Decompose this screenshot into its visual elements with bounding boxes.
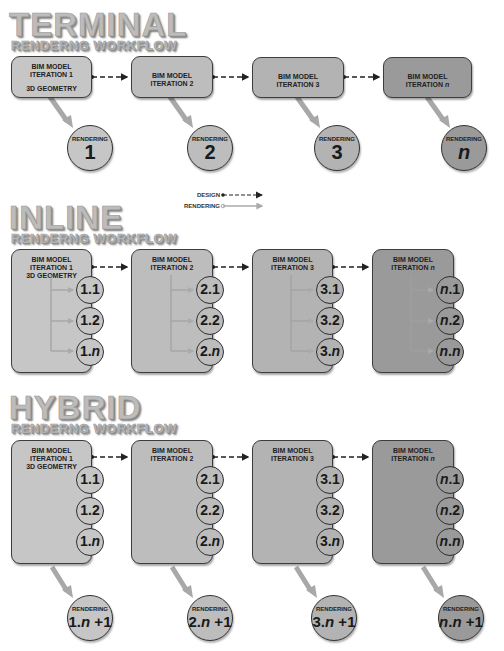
sub-rendering: 1.n [76, 528, 104, 556]
sub-rendering: 3.1 [316, 466, 344, 494]
sub-rendering: 3.n [316, 338, 344, 366]
sub-rendering: n.1 [436, 466, 464, 494]
hybrid-rendering-n: RENDERINGn.n +1 [438, 595, 484, 641]
sub-rendering: 3.n [316, 528, 344, 556]
sub-rendering: 1.1 [76, 276, 104, 304]
sub-rendering: 1.n [76, 338, 104, 366]
sub-rendering: 3.2 [316, 307, 344, 335]
sub-rendering: 2.n [196, 338, 224, 366]
hybrid-rendering-2: RENDERING2.n +1 [187, 595, 233, 641]
section-subtitle-hybrid: RENDERNG WORKFLOW [11, 422, 177, 436]
sub-rendering: 1.2 [76, 497, 104, 525]
sub-rendering: n.n [436, 338, 464, 366]
sub-rendering: 2.1 [196, 466, 224, 494]
sub-rendering: 3.2 [316, 497, 344, 525]
hybrid-rendering-3: RENDERING3.n +1 [311, 595, 357, 641]
sub-rendering: 1.1 [76, 466, 104, 494]
sub-rendering: n.n [436, 528, 464, 556]
sub-rendering: 2.1 [196, 276, 224, 304]
section-title-hybrid: HYBRID [9, 393, 142, 423]
sub-rendering: n.2 [436, 497, 464, 525]
sub-rendering: 2.2 [196, 497, 224, 525]
hybrid-rendering-1: RENDERING1.n +1 [67, 595, 113, 641]
sub-rendering: 2.2 [196, 307, 224, 335]
sub-rendering: 2.n [196, 528, 224, 556]
sub-rendering: n.1 [436, 276, 464, 304]
sub-rendering: 1.2 [76, 307, 104, 335]
sub-rendering: n.2 [436, 307, 464, 335]
sub-rendering: 3.1 [316, 276, 344, 304]
